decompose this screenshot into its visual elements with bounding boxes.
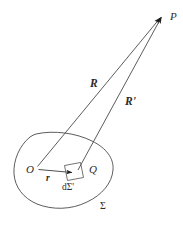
label-surface-element: dΣ': [62, 183, 74, 193]
label-vector-r: r: [46, 174, 50, 184]
vector-R-line: [38, 18, 161, 167]
vector-r-line: [39, 170, 73, 173]
label-point-P: P: [170, 11, 177, 22]
physics-diagram-figure: P R R' O r Q dΣ' Σ: [0, 0, 183, 227]
label-vector-R: R: [90, 78, 98, 90]
surface-element-patch: [65, 163, 84, 181]
label-point-Q: Q: [89, 164, 97, 175]
label-surface-sigma: Σ: [100, 201, 106, 211]
diagram-canvas: [0, 0, 183, 227]
label-vector-R-prime: R': [125, 96, 136, 108]
vector-R-prime-line: [78, 17, 162, 170]
label-point-O: O: [26, 164, 34, 175]
